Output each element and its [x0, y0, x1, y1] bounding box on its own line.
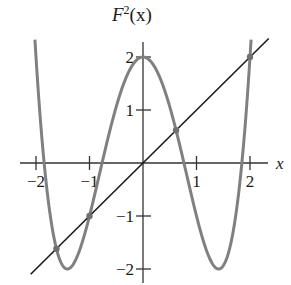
- fixed-point: [86, 213, 92, 219]
- fixed-point: [173, 127, 179, 133]
- x-tick-label: 2: [246, 172, 255, 191]
- x-tick-label: −2: [27, 172, 45, 191]
- fixed-point: [53, 246, 59, 252]
- y-tick-label: 1: [126, 101, 135, 120]
- y-tick-label: −1: [116, 207, 134, 226]
- x-axis-label: x: [275, 154, 284, 173]
- y-tick-label: −2: [116, 260, 134, 279]
- chart-title: F2(x): [111, 3, 152, 26]
- fixed-point: [247, 54, 253, 60]
- x-tick-label: 1: [192, 172, 201, 191]
- chart: −2−11221−1−2 x F2(x): [0, 0, 291, 285]
